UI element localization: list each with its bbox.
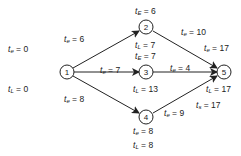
node-2-label: 2 (144, 23, 149, 32)
edge-3-5-te-label: te = 4 (170, 63, 190, 75)
node-5-tL-label: tL = 17 (206, 84, 231, 96)
node-1-tl-label: tL = 0 (8, 84, 28, 96)
edge-1-4-te-label: te = 8 (64, 94, 84, 106)
node-5-ts-label: ts = 17 (196, 100, 221, 112)
node-1-label: 1 (65, 68, 70, 77)
node-5-label: 5 (222, 68, 227, 77)
node-4-te-label: te = 8 (133, 126, 153, 138)
node-5-te-label: te = 17 (204, 43, 229, 55)
edge-1-3-te-label: te = 7 (100, 65, 120, 77)
network-diagram: 1 2 3 4 5 (0, 0, 241, 156)
node-2-tE-label: tE = 6 (135, 6, 156, 18)
node-3-tE-label: tE = 7 (135, 51, 156, 63)
edge-2-5-te-label: te = 10 (181, 27, 206, 39)
edge-4-5-te-label: te = 9 (164, 108, 184, 120)
node-4-tL-label: tL = 8 (133, 140, 153, 152)
node-1-te-label: te = 0 (8, 44, 28, 56)
edge-1-2-te-label: te = 6 (64, 34, 84, 46)
node-3-tL-label: tL = 13 (133, 84, 158, 96)
node-4-label: 4 (144, 113, 149, 122)
node-3-label: 3 (144, 68, 149, 77)
